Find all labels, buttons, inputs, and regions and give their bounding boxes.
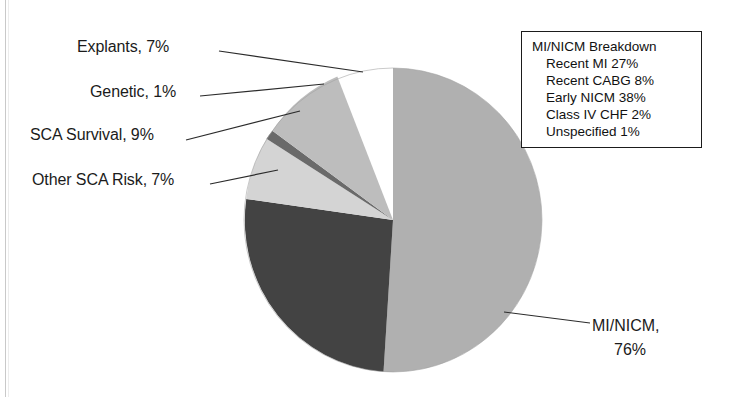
breakdown-item-recent-cabg: Recent CABG 8% [530,72,693,89]
leader-line-explants [219,51,363,72]
pie-label-other-sca-risk: Other SCA Risk, 7% [32,171,174,189]
pie-slice-other-sca-risk [245,199,393,372]
pie-label-minicm-line2: 76% [592,338,668,362]
pie-label-minicm-line1: MI/NICM, [592,317,660,334]
breakdown-item-class-iv-chf: Class IV CHF 2% [530,106,693,123]
pie-label-explants: Explants, 7% [77,38,169,56]
breakdown-item-unspecified: Unspecified 1% [530,123,693,140]
breakdown-title: MI/NICM Breakdown [530,38,693,55]
minicm-breakdown-box: MI/NICM Breakdown Recent MI 27% Recent C… [521,31,702,148]
pie-label-sca-survival: SCA Survival, 9% [30,126,154,144]
pie-label-genetic: Genetic, 1% [90,83,176,101]
pie-slice-minicm [384,68,542,372]
breakdown-item-recent-mi: Recent MI 27% [530,55,693,72]
pie-label-minicm: MI/NICM, 76% [592,314,712,362]
leader-line-minicm [504,312,590,323]
breakdown-item-early-nicm: Early NICM 38% [530,89,693,106]
leader-line-genetic [200,84,324,96]
chart-page: Explants, 7% Genetic, 1% SCA Survival, 9… [0,0,739,397]
